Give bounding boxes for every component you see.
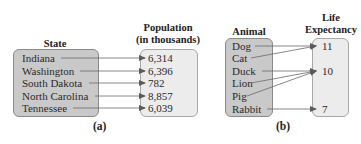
arrow-lion: [251, 71, 316, 83]
arrow-cat: [251, 46, 316, 58]
mapping-arrows: [0, 0, 361, 144]
arrow-pig: [247, 71, 316, 96]
